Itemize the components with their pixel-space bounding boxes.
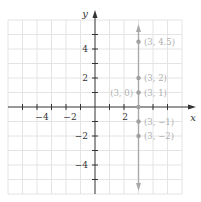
point-label-3-4.5: (3, 4.5) — [144, 37, 175, 47]
x-axis-arrow-icon — [188, 105, 196, 110]
point-3-neg1 — [136, 119, 140, 123]
coordinate-plane: −4 −2 2 4 2 −2 −4 x y (3, 4.5) (3, 2) (3… — [0, 0, 201, 202]
x-tick-label: −4 — [35, 112, 49, 122]
y-axis — [92, 18, 98, 194]
y-axis-arrow-icon — [93, 10, 98, 18]
y-tick-label: 2 — [82, 73, 88, 83]
x-axis-name: x — [190, 112, 196, 123]
y-tick-label: −2 — [75, 131, 88, 141]
x-tick-label: −2 — [63, 112, 76, 122]
point-3-4.5 — [136, 40, 140, 44]
y-tick-label: −4 — [75, 160, 89, 170]
line-down-arrow-icon — [136, 183, 141, 191]
y-tick-label: 4 — [82, 44, 88, 54]
point-label-3-neg1: (3, −1) — [144, 117, 174, 127]
point-3-2 — [136, 76, 140, 80]
point-label-3-2: (3, 2) — [144, 73, 167, 83]
point-3-neg2 — [136, 134, 140, 138]
y-axis-name: y — [81, 8, 88, 19]
line-up-arrow-icon — [136, 24, 141, 32]
x-axis — [8, 104, 190, 110]
point-label-3-0: (3, 0) — [110, 88, 133, 98]
point-3-1 — [136, 90, 140, 94]
point-3-0 — [136, 105, 140, 109]
point-label-3-neg2: (3, −2) — [144, 131, 174, 141]
point-label-3-1: (3, 1) — [144, 88, 167, 98]
x-tick-label: 2 — [122, 112, 128, 122]
